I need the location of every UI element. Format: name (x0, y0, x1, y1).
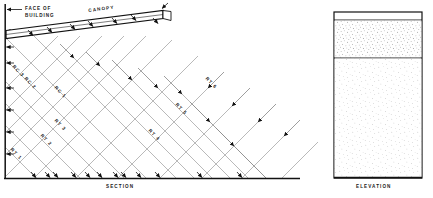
ray-direction-arrowheads (60, 44, 300, 146)
face-of-building-line1: FACE OF (25, 6, 51, 11)
elevation-light-field (335, 59, 422, 178)
ray-family-incident (6, 36, 266, 178)
face-of-building-note: FACE OF BUILDING (25, 6, 54, 19)
canopy-top-arrowhead (162, 3, 168, 9)
ray-family-reflected (6, 36, 318, 178)
elevation-drawing (334, 12, 422, 178)
canopy-end-cap (163, 11, 171, 21)
face-of-building-line2: BUILDING (25, 13, 54, 18)
wall-incidence-arrowheads (6, 31, 14, 154)
elevation-caption: ELEVATION (356, 184, 392, 189)
section-drawing (0, 0, 433, 198)
section-caption: SECTION (106, 184, 134, 189)
figure-root: FACE OF BUILDING CANOPY RC 3 RC 2 RC 1 R… (0, 0, 433, 198)
elevation-dense-band (335, 21, 422, 58)
